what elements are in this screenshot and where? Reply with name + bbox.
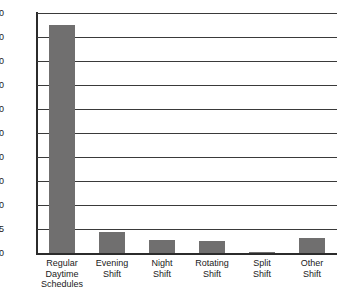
gridline [37, 109, 337, 110]
gridline [37, 37, 337, 38]
bar-chart-figure: 05102030405060708090 Regular Daytime Sch… [0, 0, 345, 300]
y-tick-label: 70 [0, 57, 4, 66]
y-tick-label: 30 [0, 153, 4, 162]
gridline [37, 181, 337, 182]
bar [49, 25, 75, 253]
gridline [37, 13, 337, 14]
bar [149, 240, 175, 253]
y-tick-label: 60 [0, 81, 4, 90]
y-tick-label: 90 [0, 9, 4, 18]
gridline [37, 85, 337, 86]
y-tick-label: 20 [0, 177, 4, 186]
y-tick-label: 10 [0, 201, 4, 210]
y-tick-label: 5 [0, 225, 4, 234]
gridline [37, 229, 337, 230]
y-tick-label: 50 [0, 105, 4, 114]
bar [99, 232, 125, 253]
gridline [37, 133, 337, 134]
bar [249, 252, 275, 254]
plot-area [37, 13, 337, 253]
bar [299, 238, 325, 253]
gridline [37, 205, 337, 206]
x-axis-baseline [37, 253, 337, 255]
gridline [37, 157, 337, 158]
y-tick-label: 40 [0, 129, 4, 138]
y-tick-label: 0 [0, 249, 4, 258]
gridline [37, 61, 337, 62]
x-tick-label: Other Shift [281, 258, 343, 279]
bar [199, 241, 225, 253]
y-tick-label: 80 [0, 33, 4, 42]
